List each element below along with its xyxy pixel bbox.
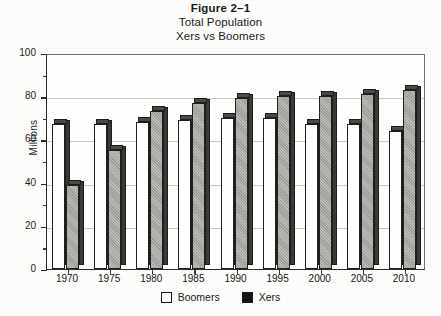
plot-area — [46, 54, 425, 270]
y-tick-label: 20 — [10, 220, 36, 231]
y-tick-major — [41, 270, 47, 271]
x-tick-label: 2005 — [342, 273, 382, 284]
bar-front-face — [305, 124, 318, 269]
bar-boomers-1995 — [263, 118, 276, 269]
bar-side-face — [205, 99, 210, 265]
legend-label-boomers: Boomers — [178, 291, 220, 303]
bar-xers-1970 — [66, 185, 79, 269]
y-tick-label: 100 — [10, 47, 36, 58]
bar-front-face — [178, 120, 191, 269]
bar-front-face — [277, 96, 290, 269]
bar-front-face — [389, 131, 402, 269]
bar-xers-1985 — [192, 103, 205, 269]
y-tick-label: 0 — [10, 263, 36, 274]
bar-side-face — [248, 94, 253, 265]
x-tick-label: 1995 — [258, 273, 298, 284]
bar-front-face — [192, 103, 205, 269]
y-tick-label: 80 — [10, 90, 36, 101]
x-tick-label: 1975 — [89, 273, 129, 284]
legend-label-xers: Xers — [259, 291, 281, 303]
chart-subtitle: Xers vs Boomers — [0, 29, 441, 43]
bar-front-face — [108, 150, 121, 269]
legend: Boomers Xers — [0, 291, 441, 303]
bar-xers-1995 — [277, 96, 290, 269]
figure-number: Figure 2–1 — [0, 2, 441, 15]
bar-side-face — [163, 107, 168, 265]
bar-front-face — [361, 94, 374, 269]
bar-front-face — [263, 118, 276, 269]
bar-boomers-2005 — [347, 124, 360, 269]
y-tick-label: 40 — [10, 177, 36, 188]
bar-front-face — [66, 185, 79, 269]
bar-side-face — [416, 86, 421, 265]
bar-side-face — [79, 181, 84, 265]
bar-front-face — [94, 124, 107, 269]
bar-xers-1990 — [235, 98, 248, 269]
bar-side-face — [121, 146, 126, 265]
bar-boomers-1990 — [221, 118, 234, 269]
bar-side-face — [290, 92, 295, 265]
bar-boomers-1975 — [94, 124, 107, 269]
bar-boomers-1970 — [52, 124, 65, 269]
x-tick-label: 1985 — [173, 273, 213, 284]
bar-xers-2010 — [403, 90, 416, 269]
black-square-icon — [242, 292, 253, 303]
bar-front-face — [235, 98, 248, 269]
bar-boomers-1985 — [178, 120, 191, 269]
bar-front-face — [136, 122, 149, 269]
bar-xers-1980 — [150, 111, 163, 269]
bar-front-face — [52, 124, 65, 269]
bar-boomers-2010 — [389, 131, 402, 269]
bar-boomers-2000 — [305, 124, 318, 269]
bar-front-face — [347, 124, 360, 269]
legend-item-boomers: Boomers — [161, 291, 220, 303]
x-tick-label: 1990 — [216, 273, 256, 284]
bar-xers-2000 — [319, 96, 332, 269]
x-tick-label: 1980 — [131, 273, 171, 284]
x-tick-label: 1970 — [47, 273, 87, 284]
bar-front-face — [150, 111, 163, 269]
figure-titles: Figure 2–1 Total Population Xers vs Boom… — [0, 2, 441, 43]
bar-boomers-1980 — [136, 122, 149, 269]
bar-front-face — [221, 118, 234, 269]
bar-xers-1975 — [108, 150, 121, 269]
bar-side-face — [374, 90, 379, 265]
white-square-icon — [161, 292, 172, 303]
x-tick-label: 2010 — [384, 273, 424, 284]
bar-side-face — [332, 92, 337, 265]
bar-xers-2005 — [361, 94, 374, 269]
bar-front-face — [319, 96, 332, 269]
bar-front-face — [403, 90, 416, 269]
y-tick-label: 60 — [10, 133, 36, 144]
legend-item-xers: Xers — [242, 291, 281, 303]
x-tick-label: 2000 — [300, 273, 340, 284]
chart-title: Total Population — [0, 15, 441, 29]
